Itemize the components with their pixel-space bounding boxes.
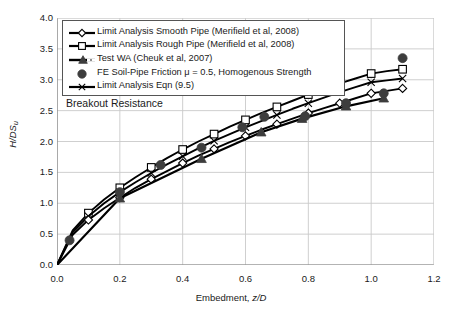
- legend-marker-open-diamond-icon: [67, 25, 97, 37]
- marker-filled-circle: [379, 89, 388, 98]
- marker-open-square: [79, 43, 86, 50]
- legend-label: Limit Analysis Rough Pipe (Merifield et …: [97, 39, 294, 49]
- marker-filled-circle: [260, 112, 269, 121]
- marker-filled-circle: [65, 236, 74, 245]
- marker-filled-circle: [78, 69, 86, 77]
- marker-open-diamond: [367, 89, 375, 97]
- marker-filled-circle: [115, 188, 124, 197]
- x-axis-title: Embedment, z/D: [0, 292, 462, 303]
- marker-open-diamond: [78, 29, 85, 36]
- series-0: [57, 84, 407, 265]
- x-tick-label: 0.8: [288, 274, 328, 284]
- y-axis-title-subscript: u: [12, 121, 19, 125]
- series-line: [57, 88, 403, 265]
- y-tick-label: 1.5: [19, 167, 53, 177]
- y-axis-title: H/DSu: [7, 99, 20, 169]
- x-tick-label: 1.2: [414, 274, 454, 284]
- marker-open-square: [399, 65, 407, 73]
- series-2: [57, 93, 389, 265]
- legend-marker-cross-x-icon: [67, 79, 97, 91]
- marker-open-square: [210, 130, 218, 138]
- y-tick-label: 4.0: [19, 13, 53, 23]
- marker-filled-circle: [238, 123, 247, 132]
- legend-item[interactable]: Limit Analysis Eqn (9.5): [67, 78, 340, 92]
- legend-item[interactable]: Test WA (Cheuk et al, 2007): [67, 51, 340, 65]
- y-tick-label: 3.5: [19, 44, 53, 54]
- x-tick-label: 1.0: [351, 274, 391, 284]
- chart-figure: 0.00.51.01.52.02.53.03.54.0 0.00.20.40.6…: [0, 0, 462, 317]
- y-tick-label: 2.5: [19, 106, 53, 116]
- y-tick-label: 3.0: [19, 75, 53, 85]
- legend-label: Limit Analysis Smooth Pipe (Merifield et…: [97, 26, 299, 36]
- chart-annotation: Breakout Resistance: [66, 97, 163, 109]
- marker-filled-circle: [197, 143, 206, 152]
- marker-filled-circle: [301, 112, 310, 121]
- marker-filled-circle: [156, 160, 165, 169]
- x-axis-title-text: Embedment,: [196, 292, 253, 303]
- marker-open-square: [179, 146, 187, 154]
- legend-item[interactable]: Limit Analysis Smooth Pipe (Merifield et…: [67, 24, 340, 38]
- legend-marker-filled-triangle-icon: [67, 52, 97, 64]
- legend-label: Limit Analysis Eqn (9.5): [97, 80, 194, 90]
- legend-item[interactable]: Limit Analysis Rough Pipe (Merifield et …: [67, 38, 340, 52]
- legend-label: FE Soil-Pipe Friction μ = 0.5, Homogenou…: [97, 67, 311, 77]
- x-tick-label: 0.6: [226, 274, 266, 284]
- y-tick-label: 2.0: [19, 137, 53, 147]
- marker-filled-circle: [342, 99, 351, 108]
- legend-item[interactable]: FE Soil-Pipe Friction μ = 0.5, Homogenou…: [67, 65, 340, 79]
- y-tick-label: 1.0: [19, 198, 53, 208]
- legend: Limit Analysis Smooth Pipe (Merifield et…: [62, 20, 345, 96]
- x-tick-label: 0.4: [163, 274, 203, 284]
- y-tick-label: 0.0: [19, 260, 53, 270]
- y-axis-title-text: H/DS: [7, 125, 18, 148]
- marker-filled-circle: [398, 54, 407, 63]
- marker-open-diamond: [398, 84, 406, 92]
- marker-open-square: [273, 103, 281, 111]
- legend-marker-filled-circle-icon: [67, 66, 97, 78]
- x-axis-title-variable: z/D: [252, 292, 266, 303]
- x-tick-label: 0.0: [37, 274, 77, 284]
- legend-marker-open-square-icon: [67, 38, 97, 50]
- y-tick-label: 0.5: [19, 229, 53, 239]
- marker-open-square: [367, 70, 375, 78]
- x-tick-label: 0.2: [100, 274, 140, 284]
- series-line: [57, 98, 384, 265]
- legend-label: Test WA (Cheuk et al, 2007): [97, 53, 212, 63]
